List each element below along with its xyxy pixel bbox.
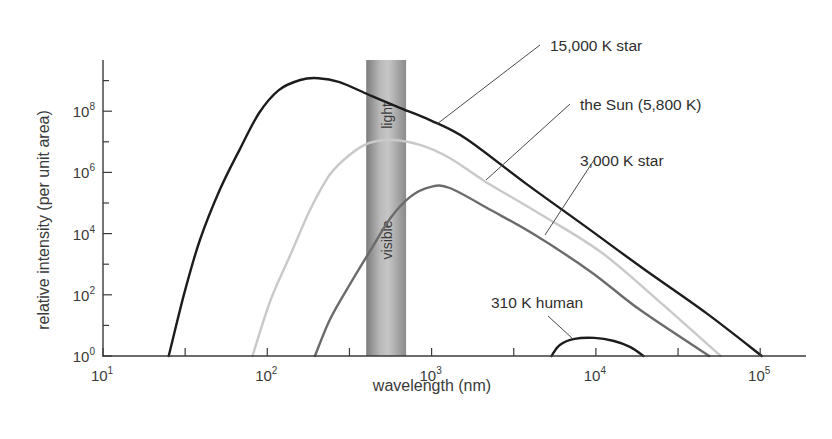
series-label: 310 K human: [491, 294, 583, 311]
band-label-visible: visible: [379, 220, 395, 259]
x-axis-title: wavelength (nm): [372, 377, 491, 394]
y-axis-title: relative intensity (per unit area): [35, 110, 52, 330]
leader-line: [548, 316, 573, 339]
y-tick-label: 100: [73, 346, 96, 365]
y-tick-label: 104: [73, 224, 96, 243]
curve-the-sun-5-800-k-: [253, 140, 721, 356]
curve-310-k-human: [552, 338, 644, 356]
x-tick-label: 104: [584, 365, 607, 384]
leader-line: [545, 160, 594, 235]
blackbody-spectrum-chart: light visible 15,000 K starthe Sun (5,80…: [0, 0, 832, 439]
series-curves: [169, 78, 762, 356]
series-label: 3,000 K star: [580, 152, 664, 169]
series-label: 15,000 K star: [550, 37, 642, 54]
band-label-light: light: [379, 103, 395, 129]
x-tick-label: 101: [91, 365, 114, 384]
y-tick-label: 108: [73, 101, 96, 120]
y-tick-label: 102: [73, 285, 96, 304]
series-label: the Sun (5,800 K): [580, 96, 702, 113]
x-tick-label: 105: [748, 365, 771, 384]
x-tick-label: 102: [255, 365, 278, 384]
y-axis-ticks: 100102104106108: [73, 81, 112, 365]
leader-line: [437, 45, 540, 124]
leader-line: [486, 104, 570, 180]
series-labels: 15,000 K starthe Sun (5,800 K)3,000 K st…: [437, 37, 702, 339]
y-tick-label: 106: [73, 162, 96, 181]
